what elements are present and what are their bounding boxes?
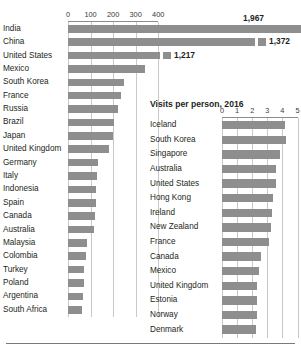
axis-tick-label-3: 3 bbox=[265, 106, 269, 115]
bar bbox=[68, 186, 96, 194]
category-label: South Africa bbox=[3, 305, 66, 315]
bar bbox=[68, 65, 145, 73]
bar bbox=[68, 306, 82, 314]
bar bbox=[222, 252, 261, 260]
bar bbox=[222, 238, 269, 246]
bar bbox=[68, 145, 109, 153]
category-label: South Korea bbox=[3, 77, 66, 87]
bar bbox=[68, 293, 83, 301]
category-label: United Kingdom bbox=[3, 144, 66, 154]
category-label: Ireland bbox=[150, 208, 220, 218]
bar bbox=[222, 150, 280, 158]
bar bbox=[68, 25, 301, 33]
category-label: Singapore bbox=[150, 149, 220, 159]
bar-value-label: 1,967 bbox=[243, 14, 264, 23]
bar bbox=[222, 325, 256, 333]
category-label: Japan bbox=[3, 131, 66, 141]
category-label: Italy bbox=[3, 171, 66, 181]
bar-value-label: 1,217 bbox=[174, 51, 195, 60]
bar bbox=[68, 199, 96, 207]
axis-tick-label-100: 100 bbox=[84, 10, 96, 19]
axis-tick-label-0: 0 bbox=[220, 106, 224, 115]
bar bbox=[222, 209, 272, 217]
gridline bbox=[298, 118, 299, 338]
category-label: South Korea bbox=[150, 135, 220, 145]
category-label: Argentina bbox=[3, 291, 66, 301]
category-label: Brazil bbox=[3, 117, 66, 127]
category-label: Indonesia bbox=[3, 184, 66, 194]
category-label: France bbox=[150, 237, 220, 247]
category-label: United Kingdom bbox=[150, 281, 220, 291]
bar bbox=[222, 179, 276, 187]
axis-tick-label-2: 2 bbox=[250, 106, 254, 115]
category-label: India bbox=[3, 24, 66, 34]
bar-continuation-stub bbox=[163, 52, 171, 60]
bar bbox=[68, 79, 124, 87]
bar bbox=[222, 121, 285, 129]
bar bbox=[68, 92, 121, 100]
category-label: Mexico bbox=[3, 64, 66, 74]
category-label: Norway bbox=[150, 310, 220, 320]
category-label: Denmark bbox=[150, 325, 220, 335]
category-label: Canada bbox=[150, 252, 220, 262]
bar bbox=[222, 296, 257, 304]
axis-tick-label-1: 1 bbox=[235, 106, 239, 115]
category-label: New Zealand bbox=[150, 222, 220, 232]
category-label: Turkey bbox=[3, 265, 66, 275]
category-label: United States bbox=[150, 179, 220, 189]
bar bbox=[68, 159, 98, 167]
category-label: Australia bbox=[3, 225, 66, 235]
bar bbox=[222, 165, 276, 173]
gridline bbox=[282, 118, 283, 338]
axis-tick-label-200: 200 bbox=[107, 10, 119, 19]
bar bbox=[68, 279, 84, 287]
category-label: Estonia bbox=[150, 295, 220, 305]
bar bbox=[68, 52, 160, 60]
bar bbox=[222, 267, 259, 275]
category-label: Iceland bbox=[150, 120, 220, 130]
bar bbox=[222, 311, 257, 319]
category-label: Germany bbox=[3, 158, 66, 168]
category-label: Malaysia bbox=[3, 238, 66, 248]
axis-rule bbox=[222, 117, 298, 118]
axis-rule bbox=[68, 21, 158, 22]
footer-divider bbox=[6, 343, 295, 344]
category-label: United States bbox=[3, 51, 66, 61]
bar bbox=[222, 282, 257, 290]
bar bbox=[68, 266, 84, 274]
axis-tick-label-5: 5 bbox=[295, 106, 299, 115]
axis-tick-label-0: 0 bbox=[66, 10, 70, 19]
category-label: China bbox=[3, 37, 66, 47]
bar bbox=[68, 252, 86, 260]
bar bbox=[68, 172, 97, 180]
category-label: Australia bbox=[150, 164, 220, 174]
bar bbox=[68, 239, 87, 247]
category-label: Hong Kong bbox=[150, 193, 220, 203]
category-label: Canada bbox=[3, 211, 66, 221]
axis-tick-label-400: 400 bbox=[152, 10, 164, 19]
axis-tick-label-300: 300 bbox=[129, 10, 141, 19]
bar bbox=[68, 212, 95, 220]
bar bbox=[68, 119, 114, 127]
category-label: France bbox=[3, 91, 66, 101]
category-label: Poland bbox=[3, 278, 66, 288]
chart-canvas: 0100200300400India1,967China1,372United … bbox=[0, 0, 301, 350]
bar-value-label: 1,372 bbox=[269, 37, 290, 46]
bar bbox=[68, 132, 113, 140]
bar bbox=[222, 194, 273, 202]
bar-continuation-stub bbox=[258, 38, 266, 46]
category-label: Mexico bbox=[150, 266, 220, 276]
bar bbox=[68, 38, 255, 46]
bar bbox=[68, 226, 94, 234]
category-label: Spain bbox=[3, 198, 66, 208]
bar bbox=[222, 136, 286, 144]
bar bbox=[222, 223, 271, 231]
category-label: Colombia bbox=[3, 251, 66, 261]
axis-tick-label-4: 4 bbox=[280, 106, 284, 115]
